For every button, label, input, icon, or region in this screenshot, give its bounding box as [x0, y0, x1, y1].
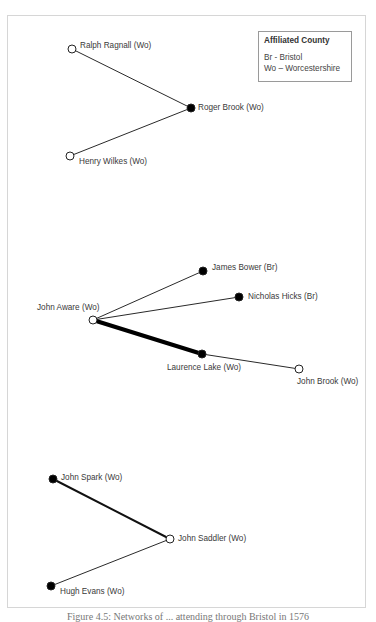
edge-hugh-saddler	[51, 539, 170, 586]
figure-caption: Figure 4.5: Networks of ... attending th…	[0, 611, 376, 622]
nodes	[47, 45, 303, 590]
node-henry-wilkes	[66, 152, 74, 160]
edges	[51, 49, 299, 586]
node-nicholas-hicks	[235, 293, 243, 301]
legend-title: Affiliated County	[264, 37, 351, 45]
label-james-bower: James Bower (Br)	[212, 264, 278, 272]
legend-entry-worcestershire: Wo – Worcestershire	[264, 65, 351, 73]
label-john-spark: John Spark (Wo)	[61, 474, 122, 482]
label-nicholas-hicks: Nicholas Hicks (Br)	[248, 293, 318, 301]
node-john-brook	[295, 365, 303, 373]
node-laurence-lake	[198, 350, 206, 358]
legend-entry-bristol: Br - Bristol	[264, 54, 351, 62]
label-ralph-ragnall: Ralph Ragnall (Wo)	[80, 42, 151, 50]
label-laurence-lake: Laurence Lake (Wo)	[167, 364, 241, 372]
node-hugh-evans	[47, 582, 55, 590]
label-henry-wilkes: Henry Wilkes (Wo)	[79, 158, 147, 166]
label-john-brook: John Brook (Wo)	[297, 378, 358, 386]
label-roger-brook: Roger Brook (Wo)	[198, 104, 264, 112]
edge-aware-laurence	[93, 320, 202, 354]
edge-aware-nicholas	[93, 297, 239, 320]
node-john-saddler	[166, 535, 174, 543]
node-john-aware	[89, 316, 97, 324]
legend-box: Affiliated County Br - Bristol Wo – Worc…	[258, 31, 352, 82]
node-ralph-ragnall	[68, 45, 76, 53]
node-john-spark	[49, 475, 57, 483]
edge-spark-saddler	[53, 479, 170, 539]
label-john-saddler: John Saddler (Wo)	[178, 535, 246, 543]
edge-henry-roger	[70, 108, 191, 156]
label-john-aware: John Aware (Wo)	[37, 304, 100, 312]
label-hugh-evans: Hugh Evans (Wo)	[60, 588, 124, 596]
node-james-bower	[199, 267, 207, 275]
node-roger-brook	[187, 104, 195, 112]
edge-ralph-roger	[72, 49, 191, 108]
edge-aware-james	[93, 271, 203, 320]
